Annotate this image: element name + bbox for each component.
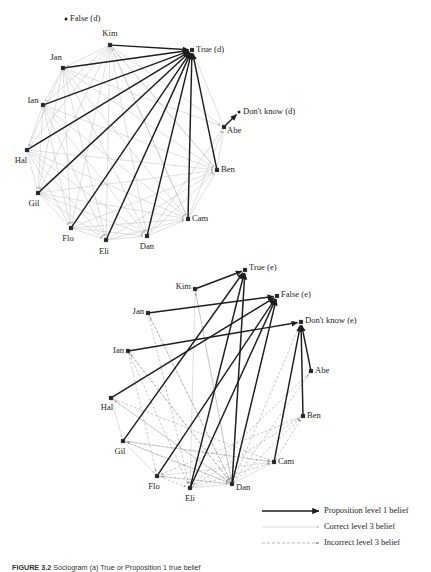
node-marker-flo[interactable] xyxy=(155,474,159,478)
edge-proposition-level1 xyxy=(124,273,243,440)
node-label-dan: Dan xyxy=(140,241,155,251)
node-marker-cam[interactable] xyxy=(272,460,276,464)
node-label-jan: Jan xyxy=(133,306,145,316)
edge-proposition-level1 xyxy=(225,114,236,125)
edge-proposition-level1 xyxy=(65,50,189,67)
edge-correct-level3 xyxy=(28,152,37,189)
edge-proposition-level1 xyxy=(232,299,276,482)
edge-correct-level3 xyxy=(63,70,71,224)
edge-incorrect-level3 xyxy=(233,374,308,482)
node-marker-ian[interactable] xyxy=(126,349,130,353)
edge-correct-level3 xyxy=(65,69,220,126)
edge-incorrect-level3 xyxy=(131,354,231,482)
edge-correct-level3 xyxy=(40,171,213,193)
node-label-flo: Flo xyxy=(62,233,73,243)
node-marker-flo[interactable] xyxy=(69,226,73,230)
edge-proposition-level1 xyxy=(130,323,298,351)
node-label-dan: Dan xyxy=(236,482,251,492)
node-label-dk_d: Don't know (d) xyxy=(243,106,295,116)
edge-proposition-level1 xyxy=(193,53,217,168)
legend-label-1: Correct level 3 belief xyxy=(324,522,395,531)
legend-label-2: Incorrect level 3 belief xyxy=(324,538,400,547)
node-label-jan: Jan xyxy=(50,52,62,62)
edge-correct-level3 xyxy=(29,150,213,169)
node-label-gil: Gil xyxy=(29,198,41,208)
node-marker-kim[interactable] xyxy=(193,287,197,291)
edge-correct-level3 xyxy=(192,484,228,487)
node-marker-ian[interactable] xyxy=(41,103,45,107)
edge-correct-level3 xyxy=(40,194,103,237)
figure-caption: FIGURE 3.2 Sociogram (a) True or Proposi… xyxy=(12,563,201,572)
node-label-ben: Ben xyxy=(221,164,236,174)
node-label-cam: Cam xyxy=(192,213,209,223)
edge-correct-level3 xyxy=(44,107,144,233)
node-label-eli: Eli xyxy=(99,246,110,256)
edge-correct-level3 xyxy=(39,70,63,189)
nodes-layer: False (d)KimTrue (d)JanIanDon't know (d)… xyxy=(15,13,357,503)
node-marker-dan[interactable] xyxy=(145,234,149,238)
node-marker-dk_d[interactable] xyxy=(238,111,241,114)
node-label-dk_e: Don't know (e) xyxy=(305,315,357,325)
legend-label-0: Proposition level 1 belief xyxy=(324,506,409,515)
edge-correct-level3 xyxy=(45,106,213,169)
node-label-flo: Flo xyxy=(148,481,159,491)
node-marker-false_e[interactable] xyxy=(275,294,279,298)
edge-correct-level3 xyxy=(28,107,42,146)
node-marker-hal[interactable] xyxy=(25,148,29,152)
edge-proposition-level1 xyxy=(29,52,189,149)
edge-correct-level3 xyxy=(28,152,69,224)
node-label-true_d: True (d) xyxy=(196,44,224,54)
node-label-ian: Ian xyxy=(28,95,40,105)
node-marker-jan[interactable] xyxy=(146,311,150,315)
edge-correct-level3 xyxy=(40,194,143,235)
edge-incorrect-level3 xyxy=(234,419,300,483)
edge-proposition-level1 xyxy=(274,325,300,460)
caption-prefix: FIGURE 3.2 xyxy=(12,563,51,572)
node-marker-eli[interactable] xyxy=(188,486,192,490)
node-marker-ben[interactable] xyxy=(301,414,305,418)
node-label-hal: Hal xyxy=(101,402,114,412)
edge-correct-level3 xyxy=(110,47,146,232)
node-marker-gil[interactable] xyxy=(121,439,125,443)
node-label-false_d: False (d) xyxy=(70,13,100,23)
node-marker-abe[interactable] xyxy=(222,125,226,129)
edge-proposition-level1 xyxy=(188,53,192,217)
edge-correct-level3 xyxy=(189,131,223,217)
edge-correct-level3 xyxy=(149,221,184,236)
node-label-abe: Abe xyxy=(227,125,242,135)
edge-proposition-level1 xyxy=(232,273,245,482)
node-marker-kim[interactable] xyxy=(108,43,112,47)
edge-incorrect-level3 xyxy=(193,373,309,486)
node-label-kim: Kim xyxy=(102,28,118,38)
edge-correct-level3 xyxy=(64,70,185,216)
node-marker-hal[interactable] xyxy=(109,396,113,400)
edge-correct-level3 xyxy=(40,47,109,189)
node-marker-dan[interactable] xyxy=(230,482,234,486)
node-label-false_e: False (e) xyxy=(281,289,311,299)
node-label-cam: Cam xyxy=(278,456,295,466)
node-marker-gil[interactable] xyxy=(36,191,40,195)
node-label-abe: Abe xyxy=(315,365,330,375)
caption-text: Sociogram (a) True or Proposition 1 true… xyxy=(53,563,200,572)
edge-correct-level3 xyxy=(45,106,185,216)
edge-proposition-level1 xyxy=(302,325,311,369)
node-marker-ben[interactable] xyxy=(215,168,219,172)
edge-correct-level3 xyxy=(43,107,70,224)
node-marker-true_d[interactable] xyxy=(190,48,194,52)
node-marker-dk_e[interactable] xyxy=(299,320,303,324)
edge-incorrect-level3 xyxy=(195,291,231,480)
node-marker-eli[interactable] xyxy=(104,238,108,242)
node-marker-jan[interactable] xyxy=(61,66,65,70)
edge-proposition-level1 xyxy=(107,53,191,238)
node-marker-true_e[interactable] xyxy=(243,268,247,272)
edge-proposition-level1 xyxy=(158,299,275,475)
node-label-hal: Hal xyxy=(15,155,28,165)
node-label-ben: Ben xyxy=(307,410,322,420)
node-marker-false_d[interactable] xyxy=(65,18,68,21)
edge-correct-level3 xyxy=(194,54,224,125)
node-marker-cam[interactable] xyxy=(186,217,190,221)
node-label-true_e: True (e) xyxy=(249,262,277,272)
node-marker-abe[interactable] xyxy=(309,369,313,373)
